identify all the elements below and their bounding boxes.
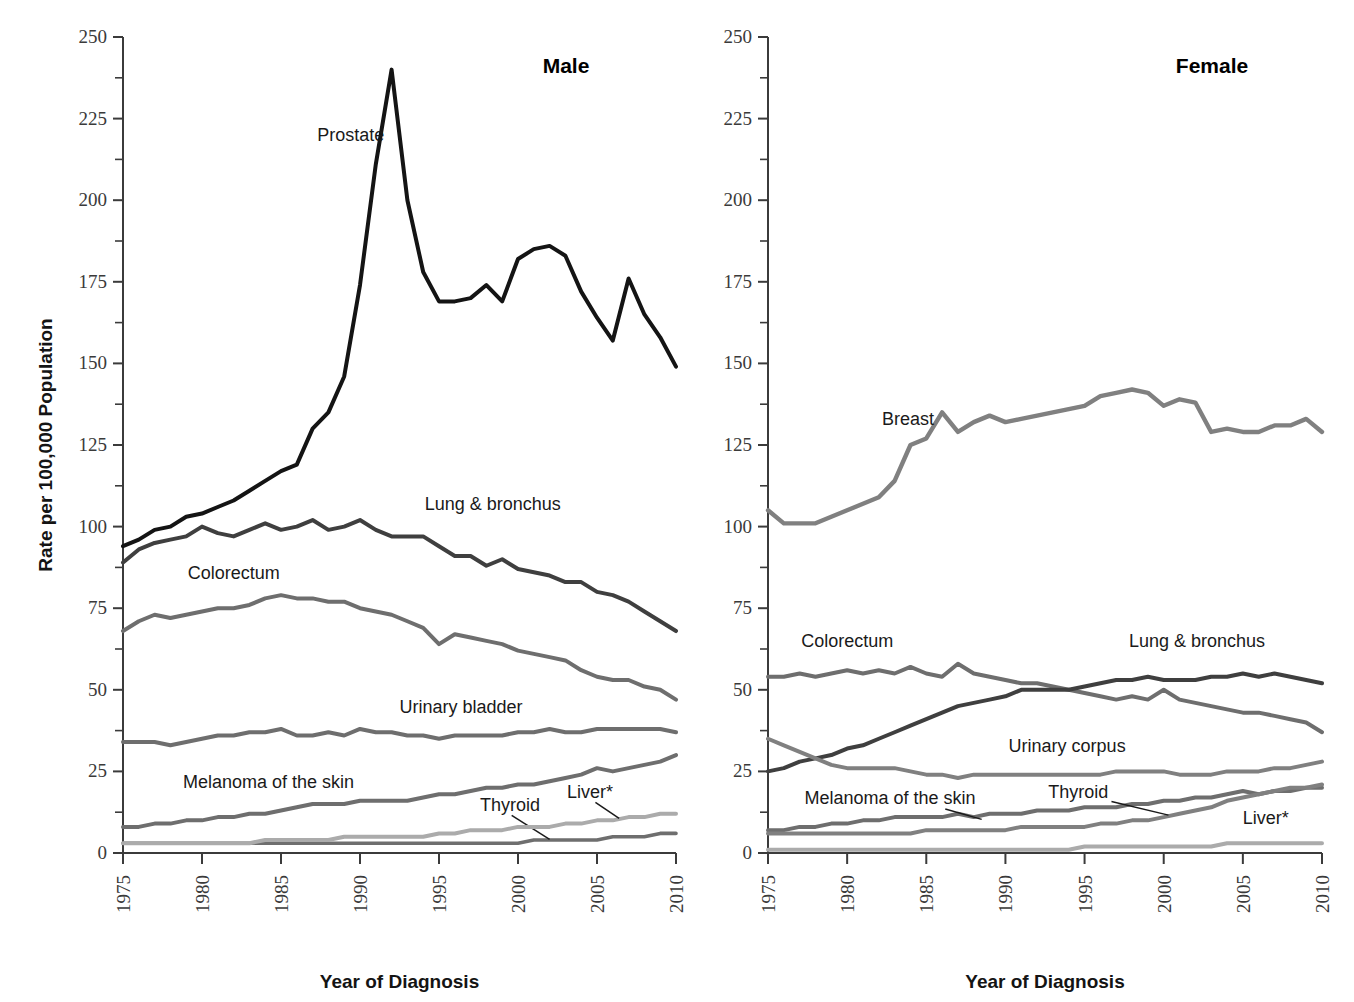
y-axis-tick-label: 225 [79,108,108,129]
y-axis-tick-label: 200 [724,189,753,210]
y-axis-tick-label: 75 [88,597,107,618]
x-axis-tick-label: 2000 [508,875,529,913]
y-axis-tick-label: 225 [724,108,753,129]
series-label-prostate: Prostate [317,125,384,145]
male-panel: 0255075100125150175200225250197519801985… [0,0,700,1002]
x-axis-tick-label: 2010 [666,875,687,913]
y-axis-tick-label: 250 [79,26,108,47]
series-label-lung-bronchus: Lung & bronchus [425,494,561,514]
series-label-colorectum: Colorectum [188,563,280,583]
y-axis-tick-label: 175 [79,271,108,292]
y-axis-tick-label: 75 [733,597,752,618]
female-panel: 0255075100125150175200225250197519801985… [700,0,1354,1002]
x-axis-tick-label: 1985 [271,875,292,913]
male-chart-svg: 0255075100125150175200225250197519801985… [0,0,700,1002]
series-label-thyroid: Thyroid [480,795,540,815]
y-axis-tick-label: 250 [724,26,753,47]
x-axis-tick-label: 1995 [1075,875,1096,913]
x-axis-tick-label: 2005 [587,875,608,913]
x-axis-title: Year of Diagnosis [320,971,479,992]
series-label-breast: Breast [882,409,934,429]
x-axis-title: Year of Diagnosis [965,971,1124,992]
y-axis-title: Rate per 100,000 Population [35,318,56,571]
x-axis-tick-label: 1985 [916,875,937,913]
y-axis-tick-label: 25 [88,760,107,781]
leader-line-liver [595,802,619,818]
series-line-liver [768,843,1322,850]
series-line-lung-bronchus [768,673,1322,771]
x-axis-tick-label: 1995 [429,875,450,913]
y-axis-tick-label: 200 [79,189,108,210]
x-axis-tick-label: 2010 [1312,875,1333,913]
x-axis-tick-label: 1990 [995,875,1016,913]
series-label-urinary-corpus: Urinary corpus [1009,736,1126,756]
y-axis-tick-label: 50 [88,679,107,700]
series-label-urinary-bladder: Urinary bladder [400,697,523,717]
x-axis-tick-label: 2000 [1154,875,1175,913]
series-label-thyroid: Thyroid [1048,782,1108,802]
series-label-melanoma-of-the-skin: Melanoma of the skin [183,772,354,792]
y-axis-tick-label: 125 [724,434,753,455]
series-line-urinary-bladder [123,729,676,745]
panel-title: Male [543,54,590,77]
y-axis-tick-label: 100 [724,516,753,537]
panel-title: Female [1176,54,1248,77]
series-label-melanoma-of-the-skin: Melanoma of the skin [804,788,975,808]
cancer-incidence-figure: 0255075100125150175200225250197519801985… [0,0,1354,1002]
y-axis-tick-label: 125 [79,434,108,455]
y-axis-tick-label: 25 [733,760,752,781]
series-line-breast [768,390,1322,524]
female-chart-svg: 0255075100125150175200225250197519801985… [700,0,1354,1002]
series-line-colorectum [123,595,676,699]
series-line-prostate [123,70,676,547]
y-axis-tick-label: 150 [79,352,108,373]
series-label-lung-bronchus: Lung & bronchus [1129,631,1265,651]
y-axis-tick-label: 0 [98,842,108,863]
x-axis-tick-label: 1990 [350,875,371,913]
x-axis-tick-label: 1975 [758,875,779,913]
x-axis-tick-label: 1980 [837,875,858,913]
series-label-liver: Liver* [1243,808,1289,828]
y-axis-tick-label: 175 [724,271,753,292]
y-axis-tick-label: 150 [724,352,753,373]
y-axis-tick-label: 50 [733,679,752,700]
x-axis-tick-label: 1980 [192,875,213,913]
axis-lines [768,37,1322,853]
x-axis-tick-label: 1975 [113,875,134,913]
series-label-liver: Liver* [567,782,613,802]
y-axis-tick-label: 100 [79,516,108,537]
x-axis-tick-label: 2005 [1233,875,1254,913]
series-label-colorectum: Colorectum [801,631,893,651]
y-axis-tick-label: 0 [743,842,753,863]
